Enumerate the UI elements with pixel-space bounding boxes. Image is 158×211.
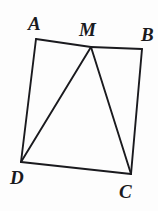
vertex-label-D: D	[10, 168, 24, 187]
segment-group	[21, 39, 142, 174]
vertex-label-M: M	[79, 20, 96, 39]
segment-mb	[91, 47, 142, 49]
segment-cd	[21, 162, 131, 174]
segment-am	[36, 39, 91, 47]
vertex-label-A: A	[28, 14, 41, 33]
geometry-figure: A M B C D	[0, 0, 158, 211]
segment-mc-diagonal	[91, 47, 131, 174]
segment-da	[21, 39, 36, 162]
segment-md-diagonal	[21, 47, 91, 162]
vertex-label-B: B	[141, 25, 154, 44]
segment-bc	[131, 49, 142, 174]
vertex-label-C: C	[119, 182, 132, 201]
